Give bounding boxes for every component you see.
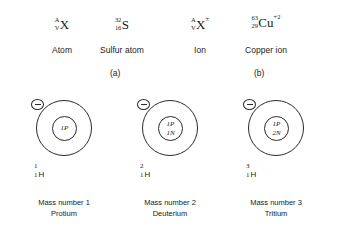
minus-sign-icon (247, 104, 253, 105)
nucleus-circle: 1P (52, 116, 77, 141)
element-symbol: S (122, 18, 129, 31)
isotope-nuclide-symbol: 2 1 H (140, 162, 149, 180)
mass-number: 3 (246, 162, 250, 171)
minus-sign-icon (141, 104, 147, 105)
nucleus-neutrons-label: 1N (166, 129, 174, 137)
element-symbol: X (196, 18, 205, 31)
atom-figure: 1P (30, 94, 98, 162)
nucleus-neutrons-label: 2N (272, 129, 280, 137)
caption-isotope-name: Tritium (220, 209, 332, 220)
caption-mass-number: Mass number 1 (8, 198, 120, 209)
mass-number: 63 (252, 14, 258, 22)
nuclide-notation-section: A V X Atom 32 16 S Sulfur atom A V X± Io… (0, 0, 339, 88)
caption-mass-number: Mass number 3 (220, 198, 332, 209)
atomic-number: 1 (140, 171, 144, 180)
mass-number: 2 (140, 162, 144, 171)
ion-charge: +2 (274, 14, 281, 21)
isotope-diagram-protium: 1P 1 1 H Mass number 1 Protium (8, 90, 120, 240)
isotope-diagram-deuterium: 1P 1N 2 1 H Mass number 2 Deuterium (114, 90, 226, 240)
notation-group-atom: A V X Atom (34, 14, 90, 55)
isotope-nuclide-symbol: 1 1 H (34, 162, 43, 180)
mass-number: A (55, 16, 60, 24)
atomic-number: 1 (34, 171, 38, 180)
nucleus-protons-label: 1P (273, 120, 281, 128)
nucleus-protons-label: 1P (61, 124, 69, 132)
electron-icon (31, 99, 44, 110)
electron-icon (243, 99, 256, 110)
nuclide-indices: 63 29 (252, 14, 258, 30)
isotope-nuclide-symbol: 3 1 H (246, 162, 255, 180)
nuclide-indices: 3 1 (246, 162, 250, 180)
nuclide-symbol-copper: 63 29 Cu+2 (252, 13, 281, 30)
element-symbol: H (39, 171, 45, 179)
notation-label-ion: Ion (176, 45, 224, 55)
nuclide-indices: 32 16 (115, 16, 121, 32)
atomic-number: 1 (246, 171, 250, 180)
notation-group-sulfur: 32 16 S Sulfur atom (86, 14, 158, 55)
hydrogen-isotopes-section: 1P 1 1 H Mass number 1 Protium 1P 1N (0, 90, 339, 240)
notation-label-sulfur: Sulfur atom (86, 45, 158, 55)
isotope-caption: Mass number 3 Tritium (220, 198, 332, 220)
atom-figure: 1P 2N (242, 94, 310, 162)
nuclide-indices: 1 1 (34, 162, 38, 180)
nucleus-circle: 1P 1N (158, 116, 183, 141)
nuclide-indices: A V (191, 16, 196, 32)
element-symbol: X (60, 18, 69, 31)
atomic-number: V (55, 24, 60, 32)
minus-sign-icon (35, 104, 41, 105)
isotope-diagram-tritium: 1P 2N 3 1 H Mass number 3 Tritium (220, 90, 332, 240)
element-symbol: Cu (258, 16, 273, 29)
nucleus-circle: 1P 2N (264, 116, 289, 141)
panel-label-b: (b) (254, 68, 264, 78)
caption-isotope-name: Deuterium (114, 209, 226, 220)
nucleus-protons-label: 1P (167, 120, 175, 128)
element-symbol: H (251, 171, 257, 179)
isotope-caption: Mass number 1 Protium (8, 198, 120, 220)
panel-label-a: (a) (110, 68, 120, 78)
electron-icon (137, 99, 150, 110)
caption-isotope-name: Protium (8, 209, 120, 220)
notation-group-copper: 63 29 Cu+2 Copper ion (228, 12, 304, 55)
atomic-number: 29 (252, 22, 258, 30)
nuclide-symbol-atom: A V X (55, 15, 70, 32)
mass-number: 32 (115, 16, 121, 24)
ion-charge: ± (205, 16, 209, 23)
isotope-caption: Mass number 2 Deuterium (114, 198, 226, 220)
nuclide-symbol-sulfur: 32 16 S (115, 15, 129, 32)
caption-mass-number: Mass number 2 (114, 198, 226, 209)
mass-number: 1 (34, 162, 38, 171)
notation-label-copper: Copper ion (228, 45, 304, 55)
mass-number: A (191, 16, 196, 24)
notation-group-ion: A V X± Ion (176, 14, 224, 55)
nuclide-indices: A V (55, 16, 60, 32)
element-symbol: H (145, 171, 151, 179)
notation-label-atom: Atom (34, 45, 90, 55)
nuclide-indices: 2 1 (140, 162, 144, 180)
nuclide-symbol-ion: A V X± (191, 15, 209, 32)
atomic-number: V (191, 24, 196, 32)
atomic-number: 16 (115, 24, 121, 32)
atom-figure: 1P 1N (136, 94, 204, 162)
